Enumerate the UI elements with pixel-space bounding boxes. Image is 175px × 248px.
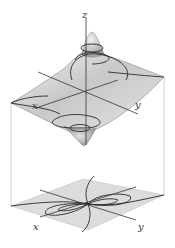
surface-3d <box>11 32 164 146</box>
plane-y-axis-label: y <box>138 222 144 232</box>
surface-y-axis-label: y <box>135 100 141 110</box>
z-axis-label: z <box>82 10 87 20</box>
surface-x-axis-label: x <box>32 101 38 111</box>
diagram-canvas <box>0 0 175 248</box>
plane-x-axis-label: x <box>33 222 39 232</box>
